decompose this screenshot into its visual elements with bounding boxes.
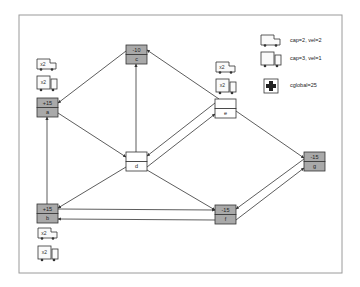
edge-e-to-g (236, 111, 304, 158)
node-c: -10c (126, 45, 147, 64)
edge-f-to-b (58, 219, 215, 220)
node-e-label: e (224, 110, 227, 116)
big-truck-icon-a: x2 (37, 76, 57, 91)
small-truck-icon-e: x2 (216, 62, 235, 74)
svg-text:x2: x2 (42, 249, 48, 255)
edge-e-to-d (147, 103, 215, 156)
legend-big-truck-text: cap=3, vel=1 (290, 55, 322, 61)
node-d: d (126, 152, 147, 171)
node-b-label: b (46, 215, 49, 221)
node-g: -15g (304, 152, 325, 171)
edge-a-to-d (58, 113, 126, 157)
node-g-value: -15 (311, 154, 319, 160)
node-f: -15f (215, 205, 236, 224)
edges-layer (47, 50, 304, 220)
svg-text:x2: x2 (41, 79, 47, 85)
edge-b-to-f (58, 209, 215, 210)
svg-text:x2: x2 (220, 82, 226, 88)
edge-d-to-b (58, 167, 126, 208)
edge-d-to-f (147, 170, 215, 210)
edge-c-to-a (58, 51, 126, 103)
legend-big-truck-icon (261, 52, 281, 67)
node-a: +15a (37, 98, 58, 117)
network-diagram: +15a+15b-10cde-15f-15g x2x2x2x2x2x2 cap=… (0, 0, 360, 287)
edge-g-to-f (236, 159, 304, 209)
legend-small-truck-icon (261, 35, 280, 47)
node-c-value: -10 (133, 47, 141, 53)
edge-d-to-e (147, 114, 215, 167)
svg-text:x2: x2 (219, 64, 225, 70)
node-a-value: +15 (43, 100, 52, 106)
svg-text:x2: x2 (40, 61, 46, 67)
edge-e-to-c (147, 50, 219, 99)
legend: cap=2, vel=2cap=3, vel=1cglobal=25 (261, 35, 322, 93)
node-b: +15b (37, 204, 58, 223)
legend-hospital-text: cglobal=25 (290, 82, 317, 88)
edge-f-to-g (236, 168, 304, 220)
legend-small-truck-text: cap=2, vel=2 (290, 37, 322, 43)
node-f-value: -15 (222, 207, 230, 213)
node-b-value: +15 (43, 206, 52, 212)
node-g-label: g (313, 163, 316, 169)
diagram-frame (19, 15, 342, 273)
nodes-layer: +15a+15b-10cde-15f-15g (37, 45, 325, 224)
big-truck-icon-b: x2 (38, 246, 58, 261)
node-d-label: d (135, 163, 138, 169)
hospital-cross-icon (264, 79, 278, 93)
node-e: e (215, 99, 236, 118)
small-truck-icon-b: x2 (38, 228, 57, 240)
big-truck-icon-e: x2 (216, 79, 236, 94)
node-c-label: c (135, 56, 138, 62)
svg-text:x2: x2 (41, 230, 47, 236)
small-truck-icon-a: x2 (37, 59, 56, 71)
